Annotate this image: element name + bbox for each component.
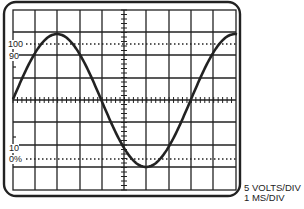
scale-label-10: 10 bbox=[9, 144, 19, 153]
time-per-div-caption: 1 MS/DIV bbox=[244, 193, 285, 203]
oscilloscope-display bbox=[0, 0, 304, 209]
scale-label-0: 0% bbox=[9, 155, 22, 164]
scale-ticks bbox=[13, 56, 19, 148]
scale-label-90: 90 bbox=[9, 52, 19, 61]
scale-label-100: 100 bbox=[8, 40, 23, 49]
